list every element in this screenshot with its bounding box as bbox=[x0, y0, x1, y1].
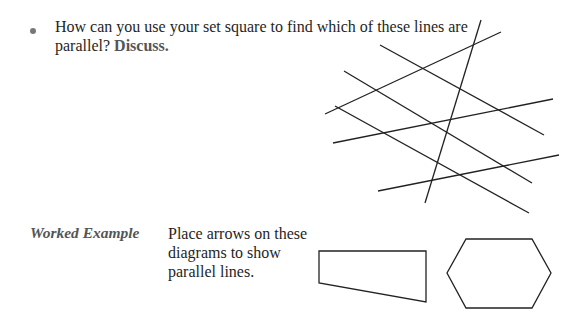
hexagon-diagram bbox=[447, 239, 551, 308]
trapezoid-diagram bbox=[319, 251, 426, 302]
worked-example-label: Worked Example bbox=[30, 224, 140, 242]
figure-line-5 bbox=[335, 106, 529, 213]
figure-line-6 bbox=[333, 99, 553, 143]
figure-line-7 bbox=[378, 155, 559, 191]
figure-line-2 bbox=[325, 32, 501, 114]
intersecting-lines-figure bbox=[325, 20, 559, 213]
worked-example-instruction: Place arrows on these diagrams to show p… bbox=[168, 224, 318, 281]
figure-line-3 bbox=[380, 45, 544, 135]
